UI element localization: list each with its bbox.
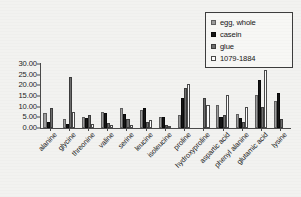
bar — [245, 107, 248, 128]
bar-group — [213, 64, 232, 128]
y-axis-tick-label: 0.00 — [23, 124, 37, 132]
bar — [264, 70, 267, 128]
y-axis-tick-label: 5.00 — [23, 113, 37, 121]
bar-group — [271, 64, 290, 128]
x-axis-label: alanine — [37, 131, 59, 153]
x-axis-label: serine — [116, 131, 135, 150]
bar-group — [251, 64, 270, 128]
bar-group — [194, 64, 213, 128]
bar-group — [98, 64, 117, 128]
bar — [280, 119, 283, 128]
bar-group — [155, 64, 174, 128]
bar — [187, 84, 190, 128]
bar — [130, 125, 133, 128]
bar — [50, 108, 53, 128]
bar-group — [40, 64, 59, 128]
bar-group — [232, 64, 251, 128]
x-axis-label: valine — [97, 131, 116, 150]
bar-group — [78, 64, 97, 128]
bar — [91, 124, 94, 128]
legend-swatch-icon — [211, 56, 216, 61]
legend-item-label: casein — [220, 30, 241, 39]
bar-group — [59, 64, 78, 128]
legend-swatch-icon — [211, 32, 216, 37]
bar — [72, 112, 75, 128]
bar-group — [117, 64, 136, 128]
bar — [149, 120, 152, 128]
y-axis-tick-label: 20.00 — [18, 81, 37, 89]
x-axis-labels: alanineglycinethreoninevalineserineleuci… — [40, 130, 290, 194]
legend-item-label: 1079-1884 — [220, 54, 255, 63]
plot-area: 30.0025.0020.0015.0010.005.000.00 — [40, 64, 290, 128]
legend-item: casein — [211, 28, 288, 40]
bar — [206, 105, 209, 128]
x-axis-label: lysine — [271, 131, 289, 150]
bar-groups — [40, 64, 290, 128]
bar — [110, 125, 113, 128]
bar — [168, 126, 171, 128]
chart-legend: egg, wholecaseinglue1079-1884 — [205, 12, 293, 68]
y-axis-tick-label: 25.00 — [18, 71, 37, 79]
legend-item-label: glue — [220, 42, 234, 51]
legend-item: egg, whole — [211, 16, 288, 28]
legend-item-label: egg, whole — [220, 18, 256, 27]
legend-swatch-icon — [211, 20, 216, 25]
chart-figure: 30.0025.0020.0015.0010.005.000.00 alanin… — [0, 0, 301, 197]
legend-swatch-icon — [211, 44, 216, 49]
legend-item: glue — [211, 40, 288, 52]
y-axis-tick-label: 15.00 — [18, 92, 37, 100]
y-axis-tick-label: 10.00 — [18, 103, 37, 111]
legend-item: 1079-1884 — [211, 52, 288, 64]
y-axis-tick-label: 30.00 — [18, 60, 37, 68]
bar-group — [175, 64, 194, 128]
bar — [226, 95, 229, 128]
bar-group — [136, 64, 155, 128]
